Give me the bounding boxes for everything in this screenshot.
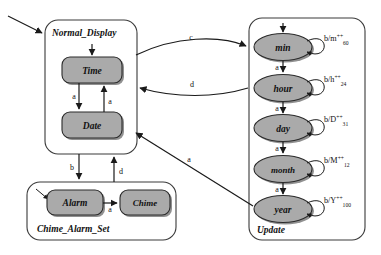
superstate-normal-display-label: Normal_Display (51, 28, 117, 38)
superstate-chime-alarm-set-label: Chime_Alarm_Set (37, 224, 110, 234)
transition-update-normal-display[interactable]: d (140, 80, 248, 96)
transition-chime-alarm-set-normal-display-label: d (119, 167, 123, 176)
transition-time-date-label: a (72, 92, 76, 101)
self-loop-day-sup: ++ (336, 114, 342, 120)
transition-alarm-chime-label: a (108, 205, 112, 214)
diagram-canvas: Normal_Display Time Date a a (0, 0, 381, 255)
self-loop-year-base: b/Y (324, 196, 336, 205)
transition-chime-alarm-set-normal-display[interactable]: d (114, 157, 123, 182)
transition-update-normal-display-line (140, 88, 248, 96)
self-loop-day-base: b/D (324, 115, 336, 124)
transition-normal-display-chime-alarm-set[interactable]: b (70, 154, 79, 179)
transition-date-time-label: a (108, 97, 112, 106)
state-alarm-label: Alarm (62, 198, 88, 208)
state-min-label: min (275, 43, 290, 53)
state-date-label: Date (82, 121, 102, 131)
state-date[interactable]: Date (62, 112, 124, 140)
state-day-label: day (276, 124, 291, 134)
self-loop-year-sup: ++ (336, 195, 342, 201)
self-loop-min-sub: 60 (343, 40, 349, 46)
initial-transition-normal-display (8, 16, 42, 33)
self-loop-month-base: b/M (324, 156, 338, 165)
self-loop-min-sup: ++ (337, 33, 343, 39)
self-loop-month-sup: ++ (338, 155, 344, 161)
transition-normal-display-chime-alarm-set-label: b (70, 163, 74, 172)
transition-normal-display-update[interactable]: c (136, 33, 246, 55)
superstate-update-label: Update (257, 225, 286, 235)
state-hour-label: hour (273, 84, 292, 94)
statechart-diagram: Normal_Display Time Date a a (0, 0, 381, 255)
state-chime[interactable]: Chime (120, 190, 172, 217)
self-loop-hour-sup: ++ (334, 74, 340, 80)
transition-normal-display-update-label: c (189, 33, 193, 42)
self-loop-min-base: b/m (324, 34, 337, 43)
self-loop-year-sub: 100 (343, 202, 352, 208)
state-chime-label: Chime (133, 198, 158, 208)
state-time[interactable]: Time (62, 57, 124, 85)
self-loop-hour-sub: 24 (341, 81, 347, 87)
state-alarm[interactable]: Alarm (47, 190, 105, 217)
state-time-label: Time (82, 66, 102, 76)
transition-year-normal-display-label: a (187, 155, 191, 164)
initial-arrow-normal-display-line (8, 16, 42, 33)
state-month-label: month (271, 165, 295, 175)
self-loop-day-sub: 31 (343, 121, 349, 127)
transition-min-hour-label: a (275, 63, 279, 72)
state-year-label: year (274, 205, 292, 215)
self-loop-hour-base: b/h (324, 75, 334, 84)
self-loop-month-sub: 12 (344, 162, 350, 168)
transition-day-month-label: a (275, 144, 279, 153)
transition-update-normal-display-label: d (190, 80, 194, 89)
transition-hour-day-label: a (275, 104, 279, 113)
transition-month-year-label: a (275, 185, 279, 194)
